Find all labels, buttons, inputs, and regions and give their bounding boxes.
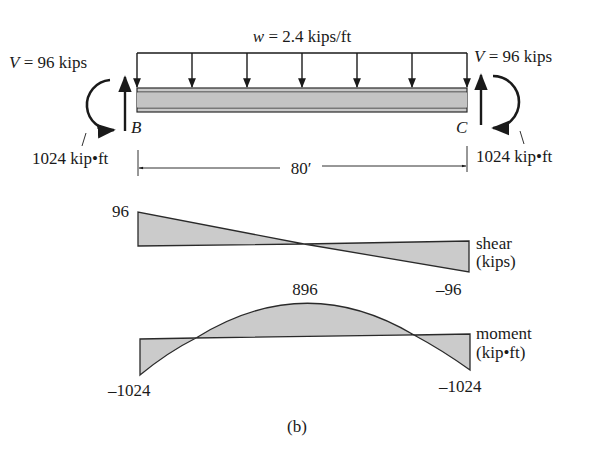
leader-line [520, 131, 524, 144]
shear-right-value: –96 [435, 280, 462, 299]
moment-diagram: 896 moment (kip•ft) –1024 –1024 [107, 280, 532, 400]
span-label: 80′ [291, 159, 312, 178]
moment-peak-value: 896 [292, 280, 318, 299]
leader-line [82, 133, 86, 146]
shear-left-value: 96 [112, 202, 129, 221]
left-shear-label: V = 96 kips [9, 53, 87, 72]
shear-title: shear [476, 234, 512, 253]
moment-units: (kip•ft) [476, 343, 525, 362]
distributed-load [137, 53, 467, 87]
figure-caption: (b) [287, 417, 307, 436]
counterclockwise-moment-arrow-icon [87, 80, 114, 130]
left-end-forces: V = 96 kips B 1024 kip•ft [9, 53, 142, 168]
shear-units: (kips) [476, 252, 516, 271]
load-label: w = 2.4 kips/ft [253, 27, 352, 46]
right-shear-label: V = 96 kips [474, 47, 552, 66]
beam-diagram: w = 2.4 kips/ft V = 96 kips B 1024 kip•f… [0, 0, 601, 469]
beam [137, 88, 467, 112]
node-label-c: C [456, 118, 468, 137]
moment-title: moment [476, 324, 532, 343]
moment-left-value: –1024 [107, 381, 151, 400]
clockwise-moment-arrow-icon [493, 76, 519, 128]
span-dimension: 80′ [138, 146, 467, 178]
load-value: = 2.4 kips/ft [264, 27, 351, 46]
right-moment-label: 1024 kip•ft [476, 147, 553, 166]
left-moment-label: 1024 kip•ft [32, 149, 109, 168]
right-end-forces: V = 96 kips C 1024 kip•ft [456, 47, 553, 166]
load-symbol: w [253, 27, 265, 46]
node-label-b: B [131, 118, 142, 137]
moment-right-value: –1024 [438, 377, 482, 396]
